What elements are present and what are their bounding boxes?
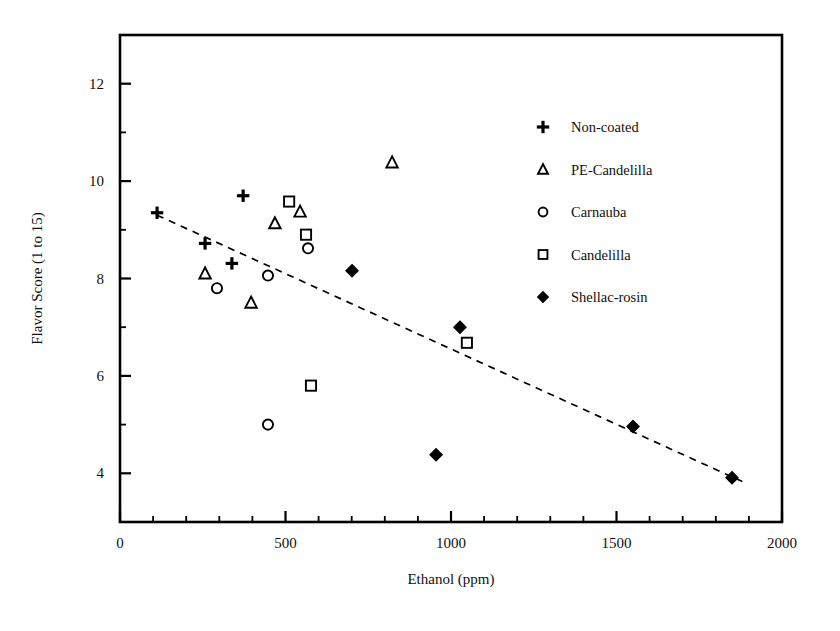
axes-layer <box>120 35 782 522</box>
legend-marker-triangle-icon <box>538 164 548 174</box>
y-tick-label: 8 <box>97 271 105 287</box>
trendline <box>157 215 742 481</box>
data-point <box>237 190 249 202</box>
axis-labels-layer: 05001000150020004681012Ethanol (ppm)Flav… <box>29 76 797 588</box>
plot-frame <box>120 35 782 522</box>
legend-label: Carnauba <box>571 204 627 220</box>
x-tick-label: 1000 <box>436 535 466 551</box>
series-pe-candelilla <box>199 156 397 307</box>
data-point <box>199 267 210 278</box>
data-point <box>726 471 738 483</box>
y-tick-label: 6 <box>97 368 105 384</box>
x-tick-label: 500 <box>274 535 297 551</box>
legend-marker-plus-icon <box>537 121 549 133</box>
data-point <box>245 297 256 308</box>
series-carnauba <box>212 243 313 429</box>
legend-label: PE-Candelilla <box>571 162 653 178</box>
chart-container: 05001000150020004681012Ethanol (ppm)Flav… <box>0 0 840 631</box>
data-point <box>346 265 358 277</box>
data-point <box>306 381 316 391</box>
data-point <box>627 420 639 432</box>
data-point <box>263 270 273 280</box>
data-point <box>212 283 222 293</box>
legend-marker-square-icon <box>539 250 548 259</box>
data-point <box>454 321 466 333</box>
legend: Non-coatedPE-CandelillaCarnaubaCandelill… <box>537 119 653 305</box>
y-tick-label: 10 <box>89 173 104 189</box>
series-candelilla <box>284 196 472 390</box>
legend-marker-diamond-icon <box>538 292 549 303</box>
y-axis-title: Flavor Score (1 to 15) <box>29 212 46 344</box>
y-tick-label: 4 <box>97 465 105 481</box>
data-point <box>301 230 311 240</box>
data-point <box>269 217 280 228</box>
x-tick-label: 2000 <box>767 535 797 551</box>
data-point <box>226 257 238 269</box>
legend-label: Shellac-rosin <box>571 289 648 305</box>
x-tick-label: 1500 <box>602 535 632 551</box>
data-points-layer <box>151 156 738 483</box>
data-point <box>263 420 273 430</box>
legend-marker-circle-icon <box>539 208 548 217</box>
scatter-plot: 05001000150020004681012Ethanol (ppm)Flav… <box>0 0 840 631</box>
trendline-layer <box>157 215 742 481</box>
data-point <box>462 338 472 348</box>
data-point <box>294 206 305 217</box>
legend-label: Candelilla <box>571 247 631 263</box>
x-tick-label: 0 <box>116 535 124 551</box>
legend-label: Non-coated <box>571 119 639 135</box>
y-tick-label: 12 <box>89 76 104 92</box>
data-point <box>386 156 397 167</box>
data-point <box>284 196 294 206</box>
series-non-coated <box>151 190 249 270</box>
data-point <box>303 243 313 253</box>
data-point <box>430 449 442 461</box>
x-axis-title: Ethanol (ppm) <box>407 571 494 588</box>
